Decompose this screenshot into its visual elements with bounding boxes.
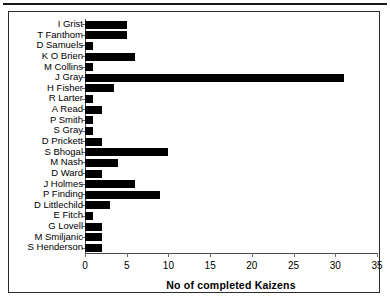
y-axis-tick-label: S Gray (0, 124, 83, 135)
x-axis-tick-label: 35 (357, 260, 390, 271)
y-axis-tick-label: M Smiljanic (0, 231, 83, 242)
figure-border-box: I GristT FanthomD SamuelsK O BrienM Coll… (8, 11, 380, 293)
y-axis-tick-label: D Prickett (0, 135, 83, 146)
bar-row: A Read (85, 104, 377, 115)
bar (85, 233, 102, 241)
y-axis-tick-label: M Nash (0, 156, 83, 167)
x-axis-tick-label: 0 (65, 260, 105, 271)
chart-screenshot: I GristT FanthomD SamuelsK O BrienM Coll… (0, 0, 390, 302)
bar (85, 116, 93, 124)
x-axis-tick-label: 15 (190, 260, 230, 271)
bar-row: D Prickett (85, 136, 377, 147)
bar (85, 127, 93, 135)
y-axis-tick-label: J Holmes (0, 178, 83, 189)
x-axis-spine (85, 253, 377, 254)
bar (85, 106, 102, 114)
bar (85, 21, 127, 29)
bar (85, 148, 168, 156)
x-axis-tick (168, 253, 169, 257)
x-axis-tick-label: 25 (274, 260, 314, 271)
bar-row: D Samuels (85, 40, 377, 51)
x-axis-tick (210, 253, 211, 257)
x-axis-tick-label: 10 (148, 260, 188, 271)
top-rule-divider (3, 3, 387, 5)
x-axis-tick-label: 5 (107, 260, 147, 271)
bar-row: P Finding (85, 189, 377, 200)
x-axis-title: No of completed Kaizens (85, 279, 377, 291)
y-axis-tick-label: M Collins (0, 61, 83, 72)
bar (85, 223, 102, 231)
x-axis-tick (85, 253, 86, 257)
bar (85, 84, 114, 92)
bar-row: M Nash (85, 157, 377, 168)
bar-row: E Fitch (85, 210, 377, 221)
y-axis-tick-label: H Fisher (0, 82, 83, 93)
x-axis-tick-label: 20 (232, 260, 272, 271)
bar-row: S Gray (85, 125, 377, 136)
y-axis-tick-label: D Ward (0, 167, 83, 178)
bar (85, 244, 102, 252)
y-axis-tick-label: G Lovell (0, 220, 83, 231)
bar (85, 159, 118, 167)
bar (85, 74, 344, 82)
y-axis-tick-label: S Henderson (0, 241, 83, 252)
bar (85, 31, 127, 39)
x-axis-tick (294, 253, 295, 257)
bar-row: D Ward (85, 168, 377, 179)
bar-row: S Henderson (85, 242, 377, 253)
y-axis-tick-label: P Finding (0, 188, 83, 199)
x-axis-tick (252, 253, 253, 257)
bar-row: S Bhogal (85, 147, 377, 158)
bar-row: H Fisher (85, 83, 377, 94)
bar (85, 170, 102, 178)
y-axis-tick-label: D Littlechild (0, 199, 83, 210)
bar (85, 95, 93, 103)
bar-row: G Lovell (85, 221, 377, 232)
bar-row: D Littlechild (85, 200, 377, 211)
bar-row: K O Brien (85, 51, 377, 62)
bar (85, 201, 110, 209)
bar (85, 180, 135, 188)
y-axis-tick-label: R Larter (0, 92, 83, 103)
bar-row: M Collins (85, 62, 377, 73)
bar-row: I Grist (85, 19, 377, 30)
y-axis-tick-label: J Gray (0, 71, 83, 82)
bar (85, 63, 93, 71)
bar-row: T Fanthom (85, 30, 377, 41)
bar-row: R Larter (85, 93, 377, 104)
bar-row: M Smiljanic (85, 232, 377, 243)
y-axis-tick-label: I Grist (0, 18, 83, 29)
bar (85, 42, 93, 50)
y-axis-tick-label: A Read (0, 103, 83, 114)
y-axis-tick-label: D Samuels (0, 39, 83, 50)
x-axis-tick-label: 30 (315, 260, 355, 271)
bar (85, 191, 160, 199)
y-axis-tick-label: S Bhogal (0, 146, 83, 157)
y-axis-tick-label: E Fitch (0, 209, 83, 220)
x-axis-tick (127, 253, 128, 257)
y-axis-tick-label: K O Brien (0, 50, 83, 61)
x-axis-tick (377, 253, 378, 257)
plot-area: I GristT FanthomD SamuelsK O BrienM Coll… (85, 19, 377, 253)
bar-row: J Holmes (85, 179, 377, 190)
bar-row: J Gray (85, 72, 377, 83)
x-axis-tick (335, 253, 336, 257)
bar (85, 212, 93, 220)
bar (85, 138, 102, 146)
bar-row: P Smith (85, 115, 377, 126)
y-axis-tick-label: T Fanthom (0, 29, 83, 40)
bar (85, 53, 135, 61)
y-axis-tick-label: P Smith (0, 114, 83, 125)
